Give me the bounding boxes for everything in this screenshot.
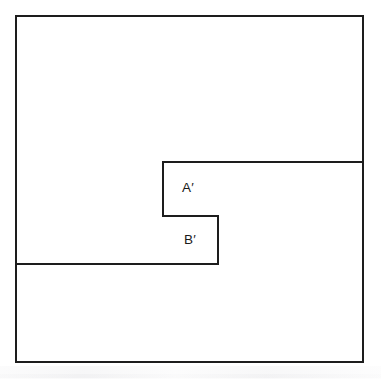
geometric-figure-svg: A′ B′ — [0, 0, 381, 379]
label-a-prime: A′ — [182, 180, 194, 195]
figure-canvas: A′ B′ — [0, 0, 381, 379]
label-b-prime: B′ — [184, 232, 196, 247]
